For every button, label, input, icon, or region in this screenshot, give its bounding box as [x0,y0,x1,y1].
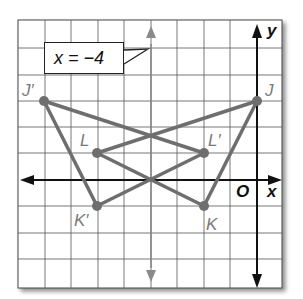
point-J [252,96,262,106]
label-K-prime: K′ [74,212,89,229]
point-J-prime [39,96,49,106]
origin-label: O [236,183,249,200]
point-L [92,148,102,158]
label-L-prime: L′ [208,132,221,149]
coordinate-plane-figure: x = −4 J K L J′ K′ L′ y x O [0,0,303,299]
label-L: L [80,132,89,149]
label-K: K [206,216,217,233]
y-axis-label: y [267,22,276,39]
point-K-prime [92,201,102,211]
x-axis-label: x [267,183,276,200]
label-J-prime: J′ [22,82,34,99]
point-K [199,201,209,211]
label-J: J [265,82,274,99]
callout-text: x = −4 [54,49,104,67]
